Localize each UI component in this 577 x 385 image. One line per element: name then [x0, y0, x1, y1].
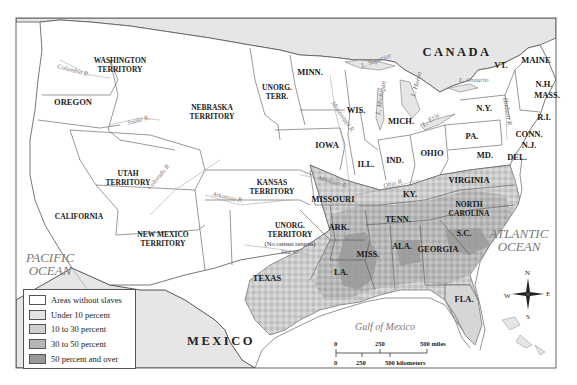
- legend-label: 10 to 30 percent: [51, 324, 106, 334]
- compass-s: S: [526, 313, 530, 321]
- region-label-pa: PA.: [466, 131, 479, 141]
- scale-miles-500: 500 miles: [420, 340, 446, 347]
- region-label-virginia: VIRGINIA: [448, 175, 490, 185]
- region-label-new-mexico-territory: NEW MEXICO: [137, 230, 188, 239]
- region-label-nebraska-territory: TERRITORY: [189, 112, 235, 121]
- region-label-california: CALIFORNIA: [55, 212, 104, 221]
- region-label-vt: VT.: [494, 60, 507, 70]
- legend-label: Areas without slaves: [51, 295, 122, 305]
- legend-item: Under 10 percent: [29, 308, 130, 323]
- region-label-new-mexico-territory: TERRITORY: [140, 239, 186, 248]
- gulf-label: Gulf of Mexico: [355, 321, 415, 332]
- region-label-iowa: IOWA: [315, 140, 339, 150]
- legend-item: Areas without slaves: [29, 293, 130, 308]
- region-label-north-carolina: CAROLINA: [449, 209, 490, 218]
- scale-km-0: 0: [334, 359, 337, 366]
- legend-swatch: [29, 295, 46, 305]
- region-label-utah-territory: UTAH: [117, 169, 138, 178]
- legend-label: 30 to 50 percent: [51, 339, 106, 349]
- region-label-maine: MAINE: [521, 55, 551, 65]
- region-label-ky: KY.: [403, 189, 417, 199]
- region-label-kansas-territory: TERRITORY: [249, 187, 295, 196]
- legend-swatch: [29, 310, 46, 320]
- compass-e: E: [546, 290, 550, 298]
- region-label-ala: ALA.: [392, 241, 412, 251]
- legend-label: 50 percent and over: [51, 354, 118, 364]
- country-label: MEXICO: [187, 334, 255, 348]
- legend-swatch: [29, 324, 46, 334]
- country-label: CANADA: [422, 45, 491, 59]
- region-label-nh: N.H.: [536, 79, 553, 89]
- compass-w: W: [504, 292, 511, 300]
- ocean-label: OCEAN: [498, 239, 542, 254]
- region-label-md: MD.: [477, 150, 493, 160]
- scale-miles-250: 250: [375, 340, 385, 347]
- region-label-nebraska-territory: NEBRASKA: [191, 103, 233, 112]
- region-label-ind: IND.: [386, 155, 404, 165]
- region-label-ri: R.I.: [537, 112, 551, 122]
- scale-miles-0: 0: [334, 340, 337, 347]
- region-label-washington-territory: WASHINGTON: [94, 56, 147, 65]
- scale-km-250: 250: [356, 359, 366, 366]
- region-label-miss: MISS.: [357, 249, 380, 259]
- region-label-unorg-territory-south: UNORG.: [275, 221, 305, 230]
- region-label-sc: S.C.: [456, 228, 471, 238]
- legend-item: 50 percent and over: [29, 351, 130, 366]
- compass-n: N: [525, 269, 530, 277]
- region-label-la: LA.: [334, 267, 348, 277]
- region-label-tenn: TENN.: [385, 214, 411, 224]
- region-label-utah-territory: TERRITORY: [105, 178, 151, 187]
- region-label-oregon: OREGON: [54, 97, 93, 107]
- region-label-georgia: GEORGIA: [417, 244, 459, 254]
- ocean-label: OCEAN: [29, 263, 73, 278]
- scale-km-500: 500 kilometers: [385, 359, 426, 366]
- legend-item: 10 to 30 percent: [29, 322, 130, 337]
- region-label-unorg-territory-south: TERRITORY: [267, 230, 313, 239]
- region-label-mich: MICH.: [388, 116, 414, 126]
- region-label-north-carolina: NORTH: [455, 200, 482, 209]
- region-label-washington-territory: TERRITORY: [97, 65, 143, 74]
- legend-swatch: [29, 339, 46, 349]
- region-label-del: DEL.: [507, 152, 527, 162]
- region-label-fla: FLA.: [454, 294, 473, 304]
- legend-label: Under 10 percent: [51, 310, 110, 320]
- map-legend: Areas without slaves Under 10 percent 10…: [23, 289, 136, 369]
- region-label-mass: MASS.: [534, 90, 560, 100]
- region-label-unorg-terr-north: TERR.: [266, 92, 289, 101]
- region-label-ny: N.Y.: [476, 103, 492, 113]
- region-label-kansas-territory: KANSAS: [257, 178, 287, 187]
- legend-item: 30 to 50 percent: [29, 337, 130, 352]
- region-label-ohio: OHIO: [420, 148, 444, 158]
- region-label-ill: ILL.: [358, 159, 375, 169]
- region-label-ark: ARK.: [328, 222, 349, 232]
- region-label-texas: TEXAS: [253, 273, 282, 283]
- region-label-conn: CONN.: [515, 129, 542, 139]
- census-note: (No census returns): [265, 240, 316, 248]
- lake-label: L. Ontario: [458, 76, 489, 84]
- region-label-nj: N.J.: [522, 140, 537, 150]
- legend-swatch: [29, 354, 46, 364]
- river-label: Red R.: [280, 248, 299, 255]
- region-label-missouri: MISSOURI: [312, 194, 356, 204]
- region-label-wis: WIS.: [347, 105, 366, 115]
- region-label-unorg-terr-north: UNORG.: [262, 83, 292, 92]
- region-label-minn: MINN.: [297, 67, 323, 77]
